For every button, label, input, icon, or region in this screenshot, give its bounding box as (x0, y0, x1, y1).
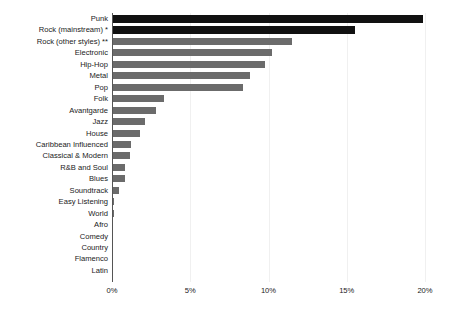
bar-row (112, 219, 425, 230)
bar-row (112, 139, 425, 150)
x-axis-tick-label: 15% (339, 285, 354, 296)
bar-row (112, 253, 425, 264)
y-axis-label: Blues (0, 173, 108, 184)
y-axis-label: Avantgarde (0, 105, 108, 116)
bar (112, 26, 355, 34)
bar-row (112, 231, 425, 242)
bar (112, 130, 140, 137)
bar-row (112, 13, 425, 24)
bar-row (112, 265, 425, 276)
bar-row (112, 173, 425, 184)
bar (112, 95, 164, 102)
bar-row (112, 93, 425, 104)
y-axis-line (112, 13, 113, 282)
bar-row (112, 116, 425, 127)
gridline-20pct (425, 13, 426, 282)
y-axis-label: Caribbean Influenced (0, 139, 108, 150)
y-axis-label: Soundtrack (0, 185, 108, 196)
y-axis-label: Latin (0, 265, 108, 276)
bar-row (112, 59, 425, 70)
bar-row (112, 47, 425, 58)
bar-row (112, 196, 425, 207)
bar-row (112, 70, 425, 81)
bar-row (112, 162, 425, 173)
y-axis-label: Hip-Hop (0, 59, 108, 70)
y-axis-label: Punk (0, 13, 108, 24)
y-axis-label: Metal (0, 70, 108, 81)
y-axis-label: Pop (0, 82, 108, 93)
y-axis-label: Country (0, 242, 108, 253)
bar-rows (112, 13, 425, 282)
bar (112, 118, 145, 125)
bar-row (112, 24, 425, 35)
y-axis-label: Easy Listening (0, 196, 108, 207)
bar (112, 38, 292, 45)
bar-row (112, 185, 425, 196)
bar-row (112, 105, 425, 116)
y-axis-label: Afro (0, 219, 108, 230)
y-axis-label: R&B and Soul (0, 162, 108, 173)
y-axis-label: Folk (0, 93, 108, 104)
y-axis-label: Rock (other styles) ** (0, 36, 108, 47)
bar (112, 187, 119, 194)
x-axis-tick-label: 20% (417, 285, 432, 296)
bar (112, 72, 250, 79)
x-axis-tick-label: 5% (185, 285, 196, 296)
bar (112, 141, 131, 148)
bar (112, 152, 130, 159)
y-axis-label: Comedy (0, 231, 108, 242)
bar-row (112, 242, 425, 253)
y-axis-label: World (0, 208, 108, 219)
bar (112, 84, 243, 91)
y-axis-label: Flamenco (0, 253, 108, 264)
bar-row (112, 208, 425, 219)
bar (112, 15, 423, 23)
y-axis-label: House (0, 128, 108, 139)
bar (112, 164, 125, 171)
bar (112, 107, 156, 114)
bar-row (112, 36, 425, 47)
y-axis-label: Classical & Modern (0, 150, 108, 161)
bar-row (112, 128, 425, 139)
bar-chart: PunkRock (mainstream) *Rock (other style… (0, 0, 449, 314)
y-axis-label: Rock (mainstream) * (0, 24, 108, 35)
bar (112, 175, 125, 182)
y-axis-label: Electronic (0, 47, 108, 58)
bar (112, 61, 265, 68)
y-axis-label: Jazz (0, 116, 108, 127)
bar-row (112, 150, 425, 161)
x-axis-tick-label: 0% (107, 285, 118, 296)
x-axis-tick-labels: 0%5%10%15%20% (0, 285, 449, 299)
bar-row (112, 82, 425, 93)
plot-area (112, 13, 425, 282)
y-axis-category-labels: PunkRock (mainstream) *Rock (other style… (0, 13, 108, 282)
bar (112, 49, 272, 56)
x-axis-tick-label: 10% (261, 285, 276, 296)
